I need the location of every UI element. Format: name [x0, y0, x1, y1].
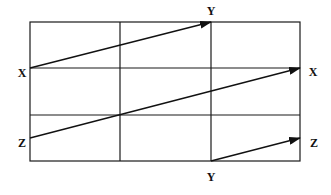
label-bottom-y: Y	[207, 170, 216, 184]
label-left-z: Z	[18, 136, 26, 150]
translation-diagram: Y X X Z Z Y	[0, 0, 331, 195]
label-right-z: Z	[310, 136, 318, 150]
label-left-x: X	[18, 66, 27, 80]
arrow-y-to-z	[211, 138, 300, 161]
arrows	[30, 22, 300, 161]
label-top-y: Y	[207, 4, 216, 18]
grid-border	[30, 22, 300, 161]
label-right-x: X	[309, 65, 318, 79]
grid	[30, 22, 300, 161]
arrow-z-to-x	[30, 68, 300, 138]
